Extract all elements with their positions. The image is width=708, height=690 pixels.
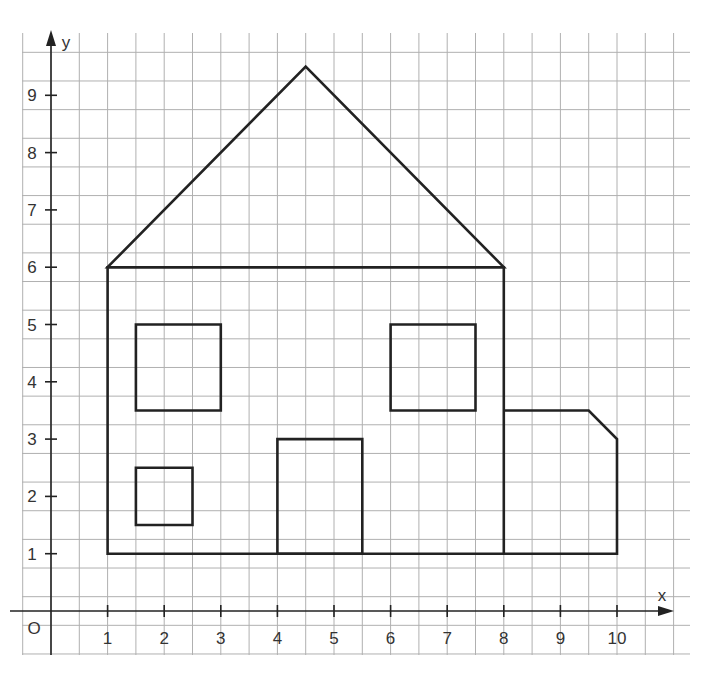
origin-label: O <box>27 619 40 638</box>
x-tick-label: 10 <box>608 629 627 648</box>
y-tick-label: 8 <box>27 144 36 163</box>
x-tick-label: 2 <box>159 629 168 648</box>
house-on-grid-figure: 12345678910123456789xyO <box>0 0 708 690</box>
y-tick-label: 7 <box>27 201 36 220</box>
x-axis-arrow-icon <box>658 606 674 616</box>
door <box>277 439 362 554</box>
y-tick-label: 2 <box>27 487 36 506</box>
axes <box>10 30 674 655</box>
y-tick-label: 3 <box>27 430 36 449</box>
x-tick-label: 3 <box>216 629 225 648</box>
axis-labels: 12345678910123456789xyO <box>27 33 666 648</box>
x-tick-label: 8 <box>499 629 508 648</box>
x-tick-label: 6 <box>386 629 395 648</box>
coordinate-diagram: 12345678910123456789xyO <box>0 0 708 690</box>
y-tick-label: 4 <box>27 373 36 392</box>
y-tick-label: 6 <box>27 258 36 277</box>
grid-lines <box>22 33 690 655</box>
y-axis-label: y <box>62 33 71 52</box>
x-tick-label: 5 <box>329 629 338 648</box>
x-axis-label: x <box>658 586 667 605</box>
x-tick-label: 4 <box>273 629 282 648</box>
x-tick-label: 1 <box>103 629 112 648</box>
y-tick-label: 9 <box>27 86 36 105</box>
y-axis-arrow-icon <box>46 30 56 46</box>
y-tick-label: 5 <box>27 316 36 335</box>
x-tick-label: 7 <box>442 629 451 648</box>
y-tick-label: 1 <box>27 545 36 564</box>
x-tick-label: 9 <box>556 629 565 648</box>
